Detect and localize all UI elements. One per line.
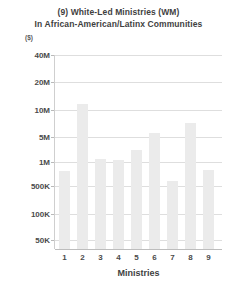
x-tick-label-1: 1: [57, 253, 73, 262]
y-tick-label: 500K: [4, 182, 50, 191]
x-tick-label-2: 2: [75, 253, 91, 262]
x-axis-line: [55, 249, 222, 250]
y-axis-tick-labels: 40M 20M 10M 5M 1M 500K 100K 50K: [0, 0, 50, 294]
chart-container: (9) White-Led Ministries (WM) In African…: [0, 0, 237, 294]
y-tick-label: 10M: [4, 106, 50, 115]
x-tick-label-7: 7: [165, 253, 181, 262]
x-tick-label-8: 8: [183, 253, 199, 262]
bar-1: [59, 171, 70, 249]
y-tick-label: 1M: [4, 158, 50, 167]
x-axis-title: Ministries: [55, 268, 222, 278]
gridline: [55, 82, 222, 83]
y-tick-label: 50K: [4, 236, 50, 245]
bar-8: [185, 123, 196, 249]
y-tick-label: 40M: [4, 51, 50, 60]
bar-6: [149, 133, 160, 249]
y-tick-label: 100K: [4, 210, 50, 219]
bar-5: [131, 150, 142, 249]
bar-4: [113, 160, 124, 249]
x-tick-label-5: 5: [129, 253, 145, 262]
bar-2: [77, 104, 88, 249]
x-tick-label-3: 3: [93, 253, 109, 262]
gridline: [55, 55, 222, 56]
y-tick-label: 5M: [4, 133, 50, 142]
chart-title-line1: (9) White-Led Ministries (WM): [58, 7, 180, 17]
x-tick-label-4: 4: [111, 253, 127, 262]
x-tick-label-9: 9: [201, 253, 217, 262]
bar-9: [203, 170, 214, 249]
x-tick-label-6: 6: [147, 253, 163, 262]
bar-3: [95, 159, 106, 249]
bar-7: [167, 181, 178, 249]
plot-area: [55, 55, 222, 249]
y-tick-label: 20M: [4, 78, 50, 87]
